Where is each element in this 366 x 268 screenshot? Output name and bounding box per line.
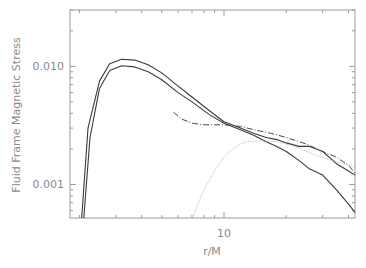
axis-ticks <box>70 10 355 218</box>
x-axis-title: r/M <box>203 245 221 258</box>
data-curves <box>82 59 355 218</box>
curve-lower-solid <box>84 66 355 218</box>
chart: 10 0.010 0.001 r/M Fluid Frame Magnetic … <box>0 0 366 268</box>
x-tick-label-10: 10 <box>217 227 231 240</box>
y-axis-title: Fluid Frame Magnetic Stress <box>10 37 23 193</box>
plot-frame <box>70 10 355 218</box>
curve-dash-dot <box>174 112 356 173</box>
curve-upper-solid <box>82 59 355 218</box>
y-tick-label-0.010: 0.010 <box>33 60 65 73</box>
y-tick-label-0.001: 0.001 <box>33 178 65 191</box>
curve-dotted <box>193 141 355 218</box>
